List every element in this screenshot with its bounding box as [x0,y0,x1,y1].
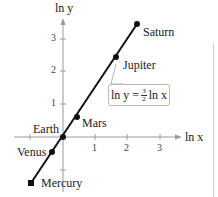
point-mars [74,114,80,120]
y-axis-label: ln y [55,2,73,14]
x-axis-label: ln x [185,131,203,143]
point-mercury [28,180,34,186]
label-mercury: Mercury [41,177,82,189]
label-mars: Mars [82,117,107,129]
point-earth [60,134,66,140]
equation-callout: ln y = 3 2 ln x [108,84,170,106]
y-tick-3: 3 [51,33,56,43]
label-jupiter: Jupiter [123,59,156,71]
point-saturn [134,21,140,27]
point-jupiter [113,54,119,60]
label-saturn: Saturn [143,26,174,38]
x-tick-2: 2 [124,143,129,153]
panel-divider [213,43,214,197]
equation-right: ln x [149,88,167,103]
y-tick-2: 2 [51,65,56,75]
chart: ln y ln x 1 2 3 1 2 3 Saturn Jupiter Mar… [0,0,218,197]
point-venus [49,149,55,155]
equation-left: ln y = [111,88,139,103]
x-axis-arrow-icon [175,135,182,140]
y-axis-arrow-icon [61,18,66,25]
x-tick-1: 1 [92,143,97,153]
y-tick-1: 1 [51,98,56,108]
label-earth: Earth [33,123,59,135]
equation-fraction: 3 2 [141,88,147,103]
label-venus: Venus [17,146,46,158]
x-tick-3: 3 [157,143,162,153]
